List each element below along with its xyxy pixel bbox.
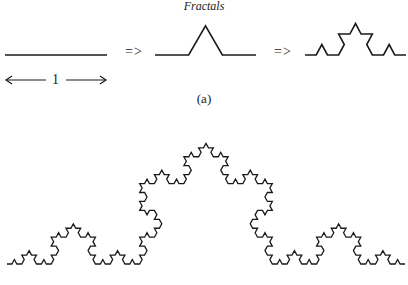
koch-iteration-2 — [305, 24, 406, 55]
koch-fractal-drawing — [0, 0, 408, 285]
koch-curve-large — [7, 143, 405, 264]
koch-iteration-1 — [155, 26, 256, 55]
unit-length-arrow — [6, 76, 106, 84]
